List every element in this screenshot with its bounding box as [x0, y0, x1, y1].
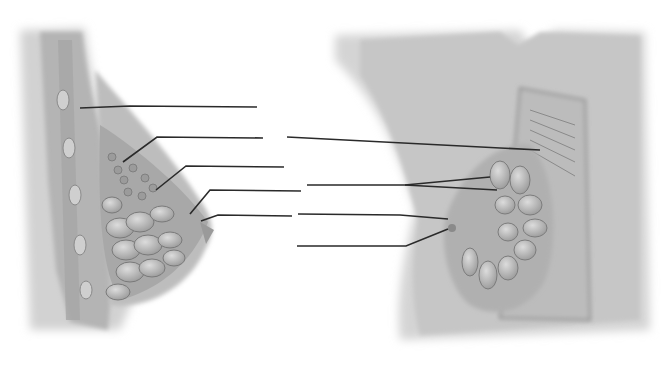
- sagittal-section: [20, 28, 214, 330]
- nipple-right: [448, 224, 456, 232]
- leader-L1: [80, 106, 257, 108]
- breast-anatomy-diagram: [0, 0, 671, 370]
- leader-L5: [201, 215, 292, 221]
- leader-L4: [190, 190, 301, 214]
